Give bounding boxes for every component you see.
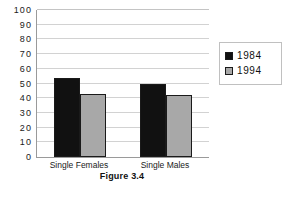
plot-area bbox=[36, 10, 209, 158]
bar-1994-single-females bbox=[80, 94, 106, 157]
y-axis-tick-label: 90 bbox=[0, 21, 32, 30]
legend-swatch-1984 bbox=[225, 52, 233, 60]
bar-1984-single-females bbox=[54, 78, 80, 157]
legend-item-1984: 1984 bbox=[225, 48, 277, 63]
y-axis: 1009080706050403020100 bbox=[0, 4, 34, 158]
bar-chart: 1009080706050403020100 Single FemalesSin… bbox=[0, 4, 215, 164]
y-axis-tick-label: 50 bbox=[0, 80, 32, 89]
x-axis-tick-label: Single Females bbox=[36, 160, 122, 170]
figure-3-4: 1009080706050403020100 Single FemalesSin… bbox=[0, 0, 290, 198]
y-axis-tick-label: 60 bbox=[0, 65, 32, 74]
legend-item-1994: 1994 bbox=[225, 63, 277, 78]
y-axis-tick-label: 100 bbox=[0, 6, 32, 15]
legend-label: 1994 bbox=[237, 65, 262, 76]
y-axis-tick-label: 0 bbox=[0, 153, 32, 162]
bar-1984-single-males bbox=[140, 84, 166, 158]
bar-1994-single-males bbox=[166, 95, 192, 157]
legend-label: 1984 bbox=[237, 50, 262, 61]
y-axis-tick-label: 10 bbox=[0, 138, 32, 147]
bar-group bbox=[54, 10, 106, 157]
x-axis-tick-label: Single Males bbox=[122, 160, 208, 170]
y-axis-tick-label: 20 bbox=[0, 124, 32, 133]
legend-swatch-1994 bbox=[225, 67, 233, 75]
chart-legend: 19841994 bbox=[219, 42, 282, 85]
figure-caption: Figure 3.4 bbox=[36, 171, 208, 181]
y-axis-tick-label: 80 bbox=[0, 35, 32, 44]
y-axis-tick-label: 70 bbox=[0, 50, 32, 59]
y-axis-tick-label: 40 bbox=[0, 94, 32, 103]
bar-series-container bbox=[37, 10, 209, 157]
bar-group bbox=[140, 10, 192, 157]
y-axis-tick-label: 30 bbox=[0, 109, 32, 118]
